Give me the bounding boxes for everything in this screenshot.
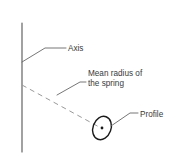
mean-radius-label-line-2: the spring	[88, 79, 124, 88]
axis-label: Axis	[68, 44, 83, 53]
mean-radius-label-line-1: Mean radius of	[88, 69, 143, 78]
profile-center-dot	[101, 127, 104, 130]
profile-label: Profile	[140, 110, 164, 119]
spring-diagram-canvas: Axis Mean radius of the spring Profile	[0, 0, 185, 159]
spring-diagram-svg: Axis Mean radius of the spring Profile	[0, 0, 185, 159]
